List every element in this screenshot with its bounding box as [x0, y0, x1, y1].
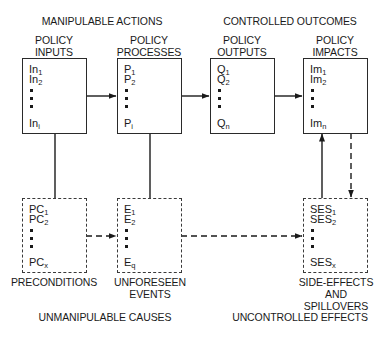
title-line: OUTPUTS: [202, 46, 282, 58]
item-second: SES2: [310, 214, 336, 225]
label-line: SIDE-EFFECTS: [286, 276, 386, 288]
ellipsis-dot: [218, 105, 221, 108]
box-policy-processes: P1 P2 Pi: [117, 58, 182, 134]
ellipsis-dot: [311, 105, 314, 108]
title-line: INPUTS: [14, 46, 94, 58]
item-last: PCx: [29, 257, 48, 268]
box-preconditions: PC1 PC2 PCx: [22, 198, 87, 273]
title-line: IMPACTS: [295, 46, 375, 58]
title-line: POLICY: [295, 34, 375, 46]
item-last: Pi: [124, 118, 133, 129]
item-last: Ini: [29, 118, 40, 129]
title-policy-processes: POLICY PROCESSES: [109, 34, 189, 58]
label-line: UNFORESEEN: [100, 276, 200, 288]
ellipsis-dot: [125, 89, 128, 92]
ellipsis-dot: [218, 89, 221, 92]
ellipsis-dot: [311, 237, 314, 240]
ellipsis-dot: [311, 89, 314, 92]
item-second: Q2: [217, 74, 230, 85]
box-policy-impacts: Im1 Im2 Imn: [303, 58, 368, 134]
title-line: PROCESSES: [109, 46, 189, 58]
box-policy-inputs: In1 In2 Ini: [22, 58, 87, 134]
ellipsis-dot: [311, 229, 314, 232]
ellipsis-dot: [125, 105, 128, 108]
title-line: POLICY: [202, 34, 282, 46]
ellipsis-dot: [30, 97, 33, 100]
item-second: PC2: [29, 214, 48, 225]
ellipsis-dot: [30, 229, 33, 232]
item-last: SESx: [310, 257, 336, 268]
ellipsis-dot: [125, 229, 128, 232]
label-preconditions: PRECONDITIONS: [4, 276, 104, 288]
box-policy-outputs: Q1 Q2 Qn: [210, 58, 275, 134]
item-last: Imn: [310, 118, 326, 129]
ellipsis-dot: [125, 237, 128, 240]
item-last: Qn: [217, 118, 230, 129]
item-second: P2: [124, 74, 136, 85]
item-second: E2: [124, 214, 136, 225]
item-last: Eq: [124, 257, 136, 268]
header-controlled-outcomes: CONTROLLED OUTCOMES: [205, 15, 375, 27]
ellipsis-dot: [125, 97, 128, 100]
label-line: EVENTS: [100, 288, 200, 300]
item-second: In2: [29, 74, 42, 85]
title-policy-impacts: POLICY IMPACTS: [295, 34, 375, 58]
label-line: SPILLOVERS: [286, 300, 386, 312]
box-side-effects: SES1 SES2 SESx: [303, 198, 368, 273]
title-policy-outputs: POLICY OUTPUTS: [202, 34, 282, 58]
label-unforeseen-events: UNFORESEEN EVENTS: [100, 276, 200, 300]
box-unforeseen-events: E1 E2 Eq: [117, 198, 182, 273]
ellipsis-dot: [311, 245, 314, 248]
label-side-effects-spillovers: SIDE-EFFECTS AND SPILLOVERS: [286, 276, 386, 312]
header-uncontrolled-effects: UNCONTROLLED EFFECTS: [215, 311, 385, 323]
title-policy-inputs: POLICY INPUTS: [14, 34, 94, 58]
label-line: AND: [286, 288, 386, 300]
title-line: POLICY: [109, 34, 189, 46]
ellipsis-dot: [218, 97, 221, 100]
ellipsis-dot: [30, 105, 33, 108]
item-second: Im2: [310, 74, 326, 85]
label-line: PRECONDITIONS: [4, 276, 104, 288]
ellipsis-dot: [30, 245, 33, 248]
header-unmanipulable-causes: UNMANIPULABLE CAUSES: [20, 311, 190, 323]
ellipsis-dot: [125, 245, 128, 248]
ellipsis-dot: [30, 89, 33, 92]
ellipsis-dot: [311, 97, 314, 100]
title-line: POLICY: [14, 34, 94, 46]
ellipsis-dot: [30, 237, 33, 240]
header-manipulable-actions: MANIPULABLE ACTIONS: [22, 15, 182, 27]
